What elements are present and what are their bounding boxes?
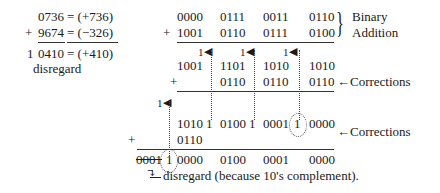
binary-row1-digit-3: 0110 xyxy=(309,10,335,24)
binary-sum-digit-0: 1001 xyxy=(177,59,203,73)
binary-plus-sign: + xyxy=(163,26,170,40)
carry-arrow-icon: 1 xyxy=(157,97,163,109)
carry-circle xyxy=(289,113,307,137)
corrections1-sum-line xyxy=(177,91,334,92)
corrections2-plus-sign: + xyxy=(128,133,135,147)
carry-arrow-icon: ◀ xyxy=(289,45,297,57)
binary-row1-digit-1: 0111 xyxy=(220,10,245,24)
carry-dotted-line xyxy=(169,101,170,156)
correction1-digit-2: 0110 xyxy=(263,75,289,89)
decimal-operand-1: 0736 xyxy=(38,10,64,24)
binary-brace-label-1: Binary xyxy=(352,10,387,24)
binary-row2-digit-2: 0111 xyxy=(263,26,288,40)
carry-arrow-icon: 1 xyxy=(198,46,204,58)
binary-row2-digit-3: 0100 xyxy=(309,26,335,40)
carry-arrow-icon: 1 xyxy=(283,46,289,58)
decimal-carry-digit: 1 xyxy=(27,47,34,61)
decimal-operand-1-value: = (+736) xyxy=(67,10,113,24)
binary-sum2-carry-1: 1 xyxy=(206,117,213,131)
decimal-sum-line-2 xyxy=(67,42,118,43)
decimal-operand-2-value: = (−326) xyxy=(67,26,113,40)
decimal-operand-2: 9674 xyxy=(38,26,64,40)
final-digit-1: 0100 xyxy=(220,153,246,167)
final-overflow-digits: 0001 xyxy=(136,153,162,167)
corrections-plus-sign: + xyxy=(170,75,177,89)
binary-sum-digit-1: 1101 xyxy=(220,59,246,73)
correction1-digit-3: 0110 xyxy=(309,75,335,89)
binary-row1-digit-2: 0011 xyxy=(263,10,289,24)
carry-dotted-line xyxy=(211,50,212,120)
binary-sum2-carry-2: 1 xyxy=(249,117,256,131)
decimal-result: 0410 xyxy=(38,47,64,61)
decimal-disregard-label: disregard xyxy=(33,62,81,76)
binary-sum2-digit-2: 0001 xyxy=(263,117,289,131)
final-digit-0: 0000 xyxy=(177,153,203,167)
decimal-plus-sign: + xyxy=(25,26,32,40)
brace-icon: } xyxy=(336,7,344,37)
final-note: disregard (because 10's complement). xyxy=(163,169,359,183)
binary-sum-digit-3: 1010 xyxy=(309,59,335,73)
binary-sum2-digit-1: 0100 xyxy=(220,117,246,131)
final-digit-2: 0001 xyxy=(263,153,289,167)
binary-sum2-digit-3: 0000 xyxy=(309,117,335,131)
binary-sum2-digit-0: 1010 xyxy=(177,117,203,131)
arrow-tail xyxy=(150,177,161,178)
corrections-label-2: ←Corrections xyxy=(337,125,411,139)
binary-sum-line xyxy=(177,42,334,43)
decimal-result-value: = (+410) xyxy=(67,47,113,61)
binary-row2-digit-0: 1001 xyxy=(177,26,203,40)
binary-sum-digit-2: 1010 xyxy=(263,59,289,73)
corrections-label-1: ←Corrections xyxy=(337,75,411,89)
final-digit-3: 0000 xyxy=(309,153,335,167)
carry-dotted-line xyxy=(254,50,255,120)
carry-dotted-line xyxy=(299,50,300,120)
carry-arrow-icon: 1 xyxy=(240,46,246,58)
binary-brace-label-2: Addition xyxy=(352,26,398,40)
binary-row1-digit-0: 0000 xyxy=(177,10,203,24)
binary-row2-digit-1: 0110 xyxy=(220,26,246,40)
correction2-digit-0: 0110 xyxy=(177,133,203,147)
carry-arrow-icon: ◀ xyxy=(163,96,171,108)
decimal-sum-line-1 xyxy=(38,42,65,43)
correction1-digit-1: 0110 xyxy=(220,75,246,89)
